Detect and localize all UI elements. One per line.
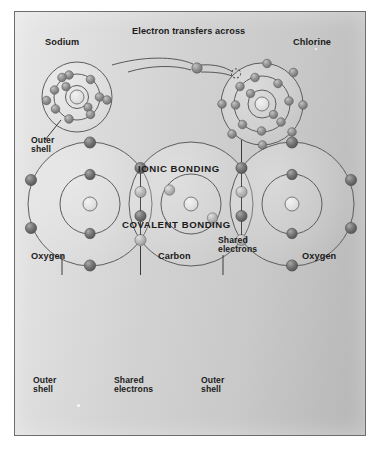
illustration-plate: Sodium Electron transfers across Chlorin…	[14, 11, 366, 436]
chlorine-atom	[218, 59, 308, 149]
label-carbon: Carbon	[158, 252, 191, 261]
outer-right-line2: shell	[201, 384, 221, 394]
label-shared-electrons-top: Sharedelectrons	[218, 236, 257, 254]
outer-shell-line2: shell	[31, 144, 51, 154]
paper-speck-2	[315, 48, 317, 50]
heading-covalent-bonding: COVALENT BONDING	[122, 220, 231, 230]
label-sodium: Sodium	[45, 38, 79, 47]
label-oxygen-left: Oxygen	[31, 252, 65, 261]
label-shared-electrons-bottom: Sharedelectrons	[114, 376, 153, 394]
label-electron-transfer: Electron transfers across	[132, 27, 245, 36]
label-chlorine: Chlorine	[293, 38, 331, 47]
chlorine-nucleus	[255, 97, 269, 111]
label-outer-shell-right: Outershell	[201, 376, 224, 394]
label-oxygen-right: Oxygen	[302, 252, 336, 261]
outer-left-line2: shell	[33, 384, 53, 394]
label-outer-shell-left: Outershell	[33, 376, 56, 394]
figure-canvas: Sodium Electron transfers across Chlorin…	[0, 0, 380, 455]
shared-bot-line2: electrons	[114, 384, 153, 394]
paper-speck	[77, 404, 80, 407]
oxygen-right-nucleus	[285, 197, 299, 211]
electron-transfer-path	[112, 58, 233, 76]
transferring-electron	[192, 63, 202, 73]
heading-ionic-bonding: IONIC BONDING	[138, 164, 220, 174]
carbon-nucleus	[184, 197, 198, 211]
sodium-nucleus	[70, 90, 84, 104]
sodium-atom	[42, 62, 112, 132]
oxygen-left-nucleus	[83, 197, 97, 211]
shared-top-line2: electrons	[218, 244, 257, 254]
label-outer-shell-sodium: Outershell	[31, 136, 54, 154]
